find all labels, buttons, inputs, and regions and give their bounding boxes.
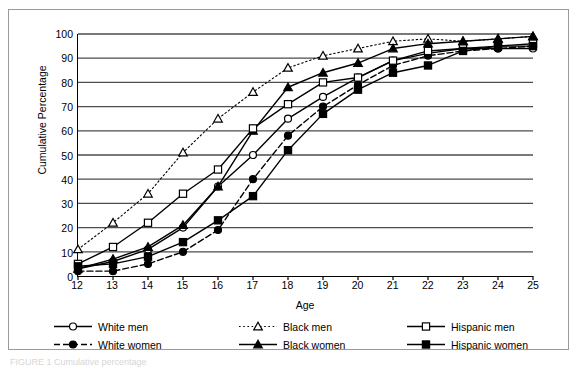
series-black-women (74, 32, 538, 272)
data-point-open-square (389, 57, 396, 64)
series-line (78, 44, 533, 264)
data-point-filled-circle (110, 268, 117, 275)
legend-label: Black women (283, 339, 345, 351)
legend-row-top: White menBlack menHispanic men (53, 319, 553, 334)
data-point-open-square (354, 74, 361, 81)
plot-area (77, 34, 533, 277)
legend-swatch-filled-circle-icon (53, 338, 93, 351)
data-point-filled-square (249, 193, 256, 200)
legend-item-white-men[interactable]: White men (53, 319, 148, 334)
data-point-filled-square (354, 86, 361, 93)
legend-label: White men (98, 321, 148, 333)
data-point-open-square (214, 166, 221, 173)
data-point-filled-square (459, 47, 466, 54)
data-point-filled-square (284, 147, 291, 154)
legend-label: White women (98, 339, 162, 351)
data-point-open-square (422, 323, 429, 330)
x-axis-tick: 21 (378, 280, 408, 291)
x-axis-tick: 25 (518, 280, 548, 291)
data-point-open-square (424, 47, 431, 54)
data-point-open-triangle (354, 44, 363, 52)
data-point-filled-triangle (144, 243, 153, 251)
y-axis-tick: 70 (39, 102, 73, 113)
x-axis-tick-labels: 1213141516171819202122232425 (77, 280, 533, 296)
y-axis-tick: 100 (39, 29, 73, 40)
data-point-filled-circle (250, 176, 257, 183)
data-point-filled-circle (285, 132, 292, 139)
series-hispanic-women (74, 43, 536, 270)
data-point-open-square (284, 101, 291, 108)
data-point-filled-square (424, 62, 431, 69)
data-point-filled-triangle (354, 59, 363, 67)
figure-frame: Cumulative Percentage 010203040506070809… (8, 9, 569, 350)
data-point-open-circle (320, 93, 327, 100)
data-point-open-circle (250, 152, 257, 159)
legend-item-black-men[interactable]: Black men (238, 319, 332, 334)
figure-caption: FIGURE 1 Cumulative percentage (10, 357, 310, 369)
legend-item-hispanic-men[interactable]: Hispanic men (406, 319, 515, 334)
series-line (78, 36, 533, 249)
y-axis-tick: 80 (39, 77, 73, 88)
legend-swatch-open-square-icon (406, 320, 446, 333)
x-axis-tick: 15 (167, 280, 197, 291)
data-point-filled-square (214, 217, 221, 224)
data-point-filled-square (494, 43, 501, 50)
data-point-filled-circle (215, 227, 222, 234)
data-point-open-square (249, 125, 256, 132)
data-point-filled-square (529, 43, 536, 50)
legend-item-black-women[interactable]: Black women (238, 337, 345, 352)
data-point-filled-square (319, 110, 326, 117)
data-point-open-triangle (249, 88, 258, 96)
x-axis-tick: 22 (413, 280, 443, 291)
legend-label: Black men (283, 321, 332, 333)
series-line (78, 46, 533, 266)
series-black-men (74, 32, 538, 253)
series-line (78, 49, 533, 269)
data-point-open-triangle (214, 114, 223, 122)
data-point-filled-triangle (284, 83, 293, 91)
data-point-filled-square (422, 341, 429, 348)
data-point-open-circle (70, 323, 77, 330)
data-point-filled-circle (145, 260, 152, 267)
y-axis-tick-labels: 0102030405060708090100 (35, 34, 73, 277)
data-point-open-circle (285, 115, 292, 122)
x-axis-tick: 19 (308, 280, 338, 291)
legend-item-white-women[interactable]: White women (53, 337, 162, 352)
legend-label: Hispanic women (451, 339, 528, 351)
x-axis-tick: 14 (132, 280, 162, 291)
legend-swatch-open-circle-icon (53, 320, 93, 333)
data-point-open-square (144, 219, 151, 226)
series-line (78, 36, 533, 268)
y-axis-tick: 90 (39, 53, 73, 64)
legend-item-hispanic-women[interactable]: Hispanic women (406, 337, 528, 352)
x-axis-tick: 17 (237, 280, 267, 291)
y-axis-tick: 50 (39, 150, 73, 161)
series-hispanic-men (74, 40, 536, 267)
x-axis-tick: 16 (202, 280, 232, 291)
legend-label: Hispanic men (451, 321, 515, 333)
data-point-filled-circle (70, 341, 77, 348)
legend-swatch-filled-triangle-icon (238, 338, 278, 351)
y-axis-tick: 10 (39, 247, 73, 258)
data-point-filled-square (109, 260, 116, 267)
y-axis-tick: 60 (39, 126, 73, 137)
data-point-filled-square (179, 239, 186, 246)
y-axis-tick: 40 (39, 175, 73, 186)
data-point-open-square (109, 243, 116, 250)
data-point-open-triangle (109, 218, 118, 226)
series-white-women (75, 43, 537, 275)
figure-page: Cumulative Percentage 010203040506070809… (0, 0, 579, 370)
x-axis-tick: 13 (97, 280, 127, 291)
data-point-filled-square (389, 69, 396, 76)
x-axis-tick: 12 (62, 280, 92, 291)
x-axis-tick: 23 (448, 280, 478, 291)
x-axis-tick: 24 (483, 280, 513, 291)
legend-swatch-filled-square-icon (406, 338, 446, 351)
chart-svg (78, 34, 533, 276)
data-point-filled-circle (320, 103, 327, 110)
x-axis-tick: 18 (272, 280, 302, 291)
x-axis-tick: 20 (343, 280, 373, 291)
x-axis-title: Age (77, 299, 533, 311)
chart-legend: White menBlack menHispanic men White wom… (53, 319, 553, 353)
data-point-open-triangle (74, 245, 83, 253)
